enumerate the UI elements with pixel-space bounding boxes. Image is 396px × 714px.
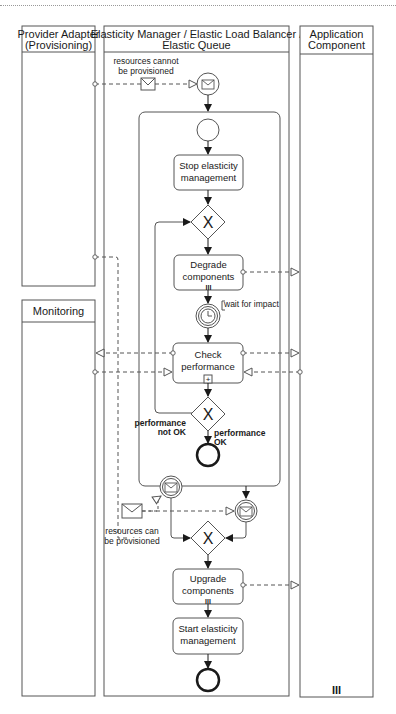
multi-instance-marker-icon: III (205, 598, 211, 605)
svg-text:Start elasticity: Start elasticity (178, 623, 237, 634)
envelope-icon (240, 507, 252, 516)
lane-title-provider-adapter-2: (Provisioning) (25, 39, 92, 51)
svg-text:management: management (180, 635, 236, 646)
task-check-performance[interactable]: Check performance + (173, 343, 243, 384)
task-start-elasticity[interactable]: Start elasticity management (173, 618, 243, 654)
task-stop-elasticity[interactable]: Stop elasticity management (174, 155, 243, 190)
multi-instance-marker-icon: III (332, 684, 341, 696)
svg-text:resources cannot: resources cannot (113, 56, 179, 66)
intermediate-message-event[interactable] (235, 500, 257, 522)
svg-text:Upgrade: Upgrade (190, 573, 226, 584)
svg-text:performance: performance (181, 361, 234, 372)
envelope-icon (122, 504, 142, 518)
svg-text:components: components (182, 585, 234, 596)
svg-text:OK: OK (214, 437, 228, 447)
lane-title-monitoring: Monitoring (33, 305, 84, 317)
bpmn-diagram: Provider Adapter (Provisioning) Monitori… (0, 0, 396, 714)
envelope-icon (141, 78, 155, 90)
annotation-wait: wait for impact (222, 299, 279, 310)
envelope-icon (202, 80, 214, 89)
svg-text:management: management (181, 172, 237, 183)
multi-instance-marker-icon: III (206, 284, 212, 291)
svg-text:Stop elasticity: Stop elasticity (179, 160, 238, 171)
task-upgrade-components[interactable]: Upgrade components III (173, 569, 243, 605)
svg-text:Degrade: Degrade (190, 259, 226, 270)
svg-text:wait for impact: wait for impact (223, 299, 279, 309)
inner-end-event[interactable] (197, 444, 219, 466)
lane-monitoring: Monitoring (22, 300, 95, 696)
boundary-message-event[interactable] (160, 476, 182, 498)
lane-title-elasticity-manager-2: Elastic Queue (162, 39, 230, 51)
end-event[interactable] (197, 669, 219, 691)
message-start-event[interactable] (197, 73, 219, 95)
clock-icon (201, 309, 215, 323)
lane-title-application-2: Component (308, 39, 365, 51)
task-degrade-components[interactable]: Degrade components III (174, 255, 243, 291)
timer-event[interactable] (196, 304, 220, 328)
svg-text:be provisioned: be provisioned (104, 536, 160, 546)
svg-text:resources can: resources can (105, 526, 159, 536)
lane-provider-adapter: Provider Adapter (Provisioning) (18, 26, 100, 286)
inner-start-event[interactable] (197, 119, 219, 141)
x-icon: X (203, 406, 214, 423)
svg-text:not OK: not OK (158, 427, 187, 437)
x-icon: X (203, 214, 214, 231)
svg-text:components: components (183, 271, 235, 282)
svg-text:+: + (206, 375, 211, 384)
x-icon: X (203, 530, 214, 547)
svg-text:Check: Check (195, 349, 222, 360)
envelope-icon (165, 483, 177, 492)
svg-text:be provisioned: be provisioned (118, 66, 174, 76)
lane-application-component: Application Component III (300, 26, 373, 697)
